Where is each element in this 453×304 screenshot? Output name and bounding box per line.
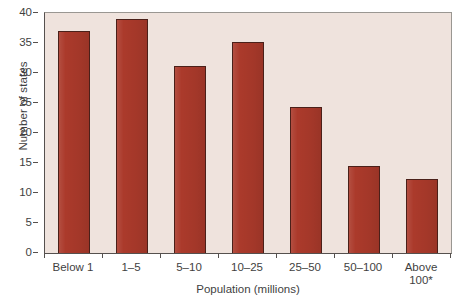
x-axis-tick-mark — [450, 253, 451, 258]
bar — [348, 166, 380, 253]
y-axis-tick-mark — [33, 132, 38, 133]
x-axis-tick-mark — [218, 253, 219, 258]
x-axis-tick-mark — [392, 253, 393, 258]
bar — [58, 31, 90, 253]
bar — [174, 66, 206, 253]
x-axis-tick-mark — [102, 253, 103, 258]
x-axis-title: Population (millions) — [44, 283, 452, 295]
bar — [232, 42, 264, 253]
x-axis-tick-label: 5–10 — [176, 261, 202, 274]
y-axis-tick-label: 15 — [19, 156, 32, 168]
bar-shading — [349, 167, 379, 253]
y-axis-tick-label: 0 — [26, 246, 32, 258]
y-axis-tick-mark — [33, 192, 38, 193]
bar — [116, 19, 148, 253]
y-axis-tick-mark — [33, 222, 38, 223]
x-axis-tick-label: 1–5 — [121, 261, 140, 274]
x-axis-tick-group: Below 11–55–1010–2525–5050–100Above 100* — [44, 253, 452, 303]
x-axis-tick-mark — [160, 253, 161, 258]
bar-series — [45, 13, 451, 253]
y-axis-tick-label: 35 — [19, 36, 32, 48]
y-axis-tick-label: 20 — [19, 126, 32, 138]
bar — [406, 179, 438, 253]
y-axis-tick-group: 0510152025303540 — [0, 0, 38, 304]
bar-shading — [117, 20, 147, 253]
bar-chart-figure: Number of states 0510152025303540 Below … — [0, 0, 453, 304]
x-axis-tick-mark — [44, 253, 45, 258]
y-axis-tick-mark — [33, 162, 38, 163]
y-axis-tick-label: 5 — [26, 216, 32, 228]
y-axis-tick-mark — [33, 12, 38, 13]
x-axis-tick-mark — [276, 253, 277, 258]
x-axis-tick-mark — [334, 253, 335, 258]
plot-area — [44, 12, 452, 254]
x-axis-tick-label: Below 1 — [53, 261, 94, 274]
y-axis-tick-label: 10 — [19, 186, 32, 198]
bar-shading — [233, 43, 263, 253]
x-axis-tick-label: 50–100 — [344, 261, 382, 274]
bar-shading — [291, 108, 321, 253]
y-axis-tick-label: 40 — [19, 6, 32, 18]
y-axis-tick-mark — [33, 252, 38, 253]
y-axis-tick-mark — [33, 72, 38, 73]
y-axis-tick-mark — [33, 102, 38, 103]
y-axis-tick-label: 25 — [19, 96, 32, 108]
x-axis-tick-label: 25–50 — [289, 261, 321, 274]
bar-shading — [175, 67, 205, 253]
bar — [290, 107, 322, 253]
bar-shading — [407, 180, 437, 253]
x-axis-tick-label: 10–25 — [231, 261, 263, 274]
y-axis-tick-mark — [33, 42, 38, 43]
y-axis-tick-label: 30 — [19, 66, 32, 78]
bar-shading — [59, 32, 89, 253]
